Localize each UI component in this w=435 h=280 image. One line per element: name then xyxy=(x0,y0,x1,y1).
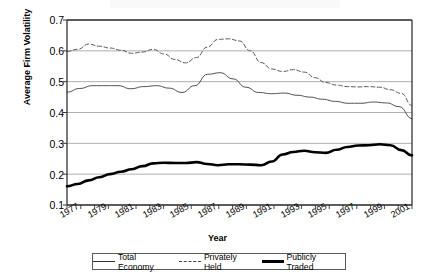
series-line-publicly-traded xyxy=(67,144,412,186)
legend-item-total-economy[interactable]: Total Economy xyxy=(93,252,174,272)
legend-swatch-dashed-icon xyxy=(179,258,201,266)
legend-item-publicly-traded[interactable]: Publicly Traded xyxy=(262,252,345,272)
legend-label-publicly-traded: Publicly Traded xyxy=(287,252,345,272)
gridlines xyxy=(67,20,412,205)
legend-label-total-economy: Total Economy xyxy=(118,252,174,272)
legend-item-privately-held[interactable]: Privately Held xyxy=(179,252,257,272)
chart-figure: Average Firm Volatility 0.7 0.6 0.5 0.4 … xyxy=(0,0,435,280)
chart-legend: Total Economy Privately Held Publicly Tr… xyxy=(92,253,346,270)
x-axis-title: Year xyxy=(0,233,435,243)
legend-label-privately-held: Privately Held xyxy=(204,252,257,272)
legend-swatch-solid-thick-icon xyxy=(262,258,284,266)
series-line-privately-held xyxy=(67,39,412,106)
series-line-total-economy xyxy=(67,73,412,119)
legend-swatch-solid-thin-icon xyxy=(93,258,115,266)
